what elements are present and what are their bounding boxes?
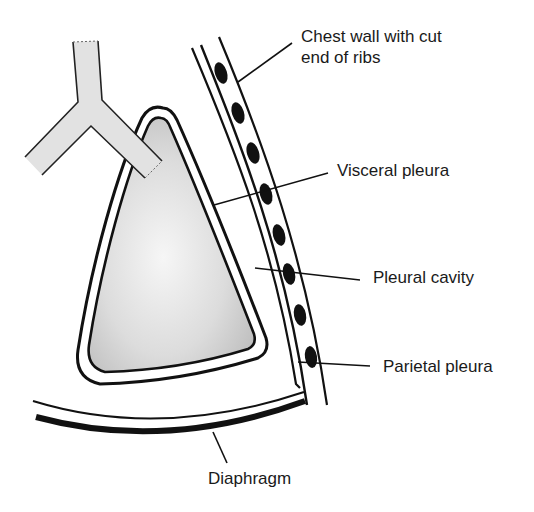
leader-chest-wall [238, 43, 292, 82]
diaphragm-thick-band [36, 401, 305, 431]
pleura-diagram [0, 0, 534, 512]
diaphragm [33, 392, 305, 431]
label-pleural-cavity: Pleural cavity [373, 267, 474, 288]
rib-icon [292, 303, 308, 327]
bronchus [25, 41, 162, 178]
label-diaphragm: Diaphragm [208, 468, 291, 489]
label-chest-wall: Chest wall with cut end of ribs [301, 26, 442, 68]
lung [77, 107, 267, 384]
label-chest-wall-line1: Chest wall with cut [301, 26, 442, 47]
label-visceral-pleura: Visceral pleura [337, 160, 449, 181]
rib-icon [303, 345, 318, 369]
bronchus-shape [25, 41, 162, 178]
label-parietal-pleura: Parietal pleura [383, 356, 493, 377]
leader-diaphragm [213, 432, 227, 463]
leader-pleural-cavity [255, 268, 360, 280]
parietal-pleura-corner [200, 384, 296, 404]
label-chest-wall-line2: end of ribs [301, 47, 442, 68]
